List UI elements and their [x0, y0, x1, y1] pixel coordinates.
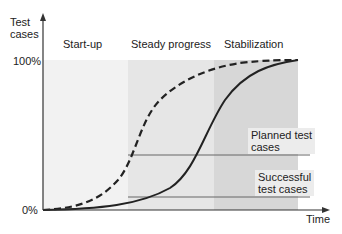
y-axis-label-line1: Test: [10, 16, 39, 28]
x-axis-label: Time: [306, 213, 330, 225]
successful-annotation: Successful test cases: [255, 170, 314, 196]
phase-stabilization-label: Stabilization: [224, 38, 283, 50]
tick-100-label: 100%: [13, 55, 41, 67]
tick-0-label: 0%: [22, 204, 38, 216]
y-axis-arrow-icon: [40, 13, 46, 21]
phase-steady-label: Steady progress: [131, 38, 211, 50]
y-axis-label: Test cases: [10, 16, 39, 40]
y-axis-label-line2: cases: [10, 28, 39, 40]
phase-startup-label: Start-up: [63, 38, 102, 50]
successful-annotation-line1: Successful: [258, 171, 311, 183]
planned-annotation-line2: cases: [251, 141, 312, 153]
phase-startup-region: [43, 60, 128, 210]
planned-annotation-line1: Planned test: [251, 129, 312, 141]
successful-annotation-line2: test cases: [258, 183, 311, 195]
planned-annotation: Planned test cases: [248, 128, 315, 154]
chart-canvas: [0, 0, 342, 234]
